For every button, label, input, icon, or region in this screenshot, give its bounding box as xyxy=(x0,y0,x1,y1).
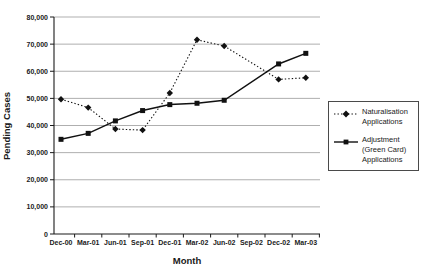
legend-label-adjustment: Adjustment (Green Card) Applications xyxy=(362,135,415,165)
marker-square xyxy=(59,137,64,142)
x-tick-label: Dec-01 xyxy=(158,239,181,246)
x-axis-title: Month xyxy=(173,255,202,266)
legend-key-dotted-diamond-icon xyxy=(333,109,359,119)
legend-entry-naturalisation: Naturalisation Applications xyxy=(333,107,415,127)
x-tick-label: Sep-01 xyxy=(131,239,154,247)
marker-square xyxy=(303,51,308,56)
y-tick-label: 60,000 xyxy=(27,68,49,76)
y-tick-label: 10,000 xyxy=(27,203,49,211)
marker-diamond xyxy=(303,75,309,81)
marker-square xyxy=(222,98,227,103)
y-axis-title: Pending Cases xyxy=(1,92,12,160)
x-tick-label: Mar-02 xyxy=(186,239,209,246)
y-tick-label: 30,000 xyxy=(27,149,49,157)
series-line-naturalisation xyxy=(61,40,306,130)
marker-square xyxy=(195,101,200,106)
x-tick-label: Mar-03 xyxy=(295,239,318,246)
chart-figure: 010,00020,00030,00040,00050,00060,00070,… xyxy=(0,0,421,277)
x-tick-label: Dec-00 xyxy=(50,239,73,246)
x-tick-label: Jun-02 xyxy=(213,239,236,246)
y-tick-label: 70,000 xyxy=(27,41,49,49)
y-tick-label: 80,000 xyxy=(27,14,49,22)
legend-key-solid-square-icon xyxy=(333,137,359,147)
marker-square xyxy=(140,108,145,113)
plot-layer: 010,00020,00030,00040,00050,00060,00070,… xyxy=(27,14,320,248)
x-tick-label: Jun-01 xyxy=(104,239,127,246)
legend: Naturalisation Applications Adjustment (… xyxy=(328,101,419,171)
y-tick-label: 40,000 xyxy=(27,122,49,130)
y-tick-label: 0 xyxy=(44,231,48,238)
legend-entry-adjustment: Adjustment (Green Card) Applications xyxy=(333,135,415,165)
marker-square xyxy=(86,131,91,136)
marker-diamond xyxy=(275,76,281,82)
marker-diamond xyxy=(194,37,200,43)
x-tick-label: Mar-01 xyxy=(77,239,100,246)
x-tick-label: Dec-02 xyxy=(267,239,290,246)
marker-square xyxy=(113,118,118,123)
x-tick-label: Sep-02 xyxy=(240,239,263,247)
y-tick-label: 20,000 xyxy=(27,176,49,184)
legend-label-naturalisation: Naturalisation Applications xyxy=(362,107,415,127)
marker-diamond xyxy=(139,127,145,133)
marker-square xyxy=(167,102,172,107)
marker-diamond xyxy=(58,96,64,102)
y-tick-label: 50,000 xyxy=(27,95,49,103)
marker-square xyxy=(276,61,281,66)
series-line-adjustment xyxy=(61,53,306,139)
